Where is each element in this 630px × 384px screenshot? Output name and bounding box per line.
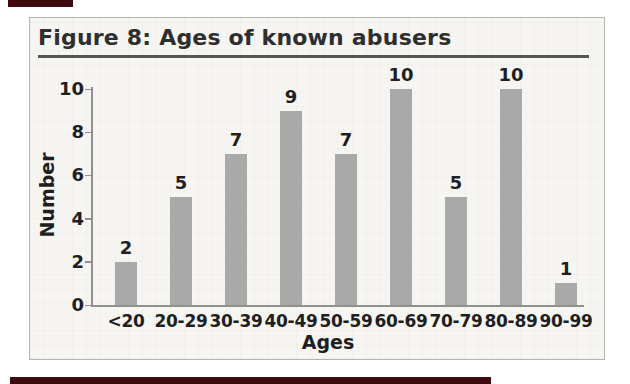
bar-value-label: 10 (379, 65, 423, 85)
bar (500, 89, 522, 305)
page-decoration-bottom-strip (10, 377, 491, 384)
page: Figure 8: Ages of known abusers 02468102… (0, 0, 630, 384)
x-axis-line (91, 305, 584, 307)
y-tick-label: 2 (54, 252, 84, 272)
x-tick-label: 20-29 (151, 311, 211, 331)
x-tick-label: 50-59 (316, 311, 376, 331)
y-axis-line (91, 87, 93, 306)
y-tick-mark (85, 89, 91, 91)
bar (170, 197, 192, 305)
y-tick-mark (85, 132, 91, 134)
bar-value-label: 7 (214, 130, 258, 150)
y-tick-label: 8 (54, 122, 84, 142)
bar (225, 154, 247, 305)
x-tick-label: 70-79 (426, 311, 486, 331)
x-tick-label: 40-49 (261, 311, 321, 331)
x-tick-label: 80-89 (481, 311, 541, 331)
bar-value-label: 2 (104, 238, 148, 258)
bar (390, 89, 412, 305)
y-tick-label: 0 (54, 295, 84, 315)
y-tick-label: 10 (54, 79, 84, 99)
bar (280, 111, 302, 305)
bar-value-label: 10 (489, 65, 533, 85)
bar-value-label: 1 (544, 259, 588, 279)
bar (445, 197, 467, 305)
bar-chart: 02468102<20520-29730-39940-49750-591060-… (0, 0, 630, 384)
bar-value-label: 5 (159, 173, 203, 193)
y-tick-label: 4 (54, 209, 84, 229)
bar (115, 262, 137, 305)
y-tick-mark (85, 261, 91, 263)
x-tick-label: <20 (96, 311, 156, 331)
y-axis-title: Number (36, 152, 58, 237)
x-axis-title: Ages (288, 331, 368, 353)
y-tick-mark (85, 305, 91, 307)
x-tick-label: 90-99 (536, 311, 596, 331)
bar (555, 283, 577, 305)
bar-value-label: 5 (434, 173, 478, 193)
y-tick-label: 6 (54, 165, 84, 185)
bar-value-label: 9 (269, 87, 313, 107)
y-tick-mark (85, 175, 91, 177)
x-tick-label: 60-69 (371, 311, 431, 331)
x-tick-label: 30-39 (206, 311, 266, 331)
y-tick-mark (85, 218, 91, 220)
bar-value-label: 7 (324, 130, 368, 150)
bar (335, 154, 357, 305)
